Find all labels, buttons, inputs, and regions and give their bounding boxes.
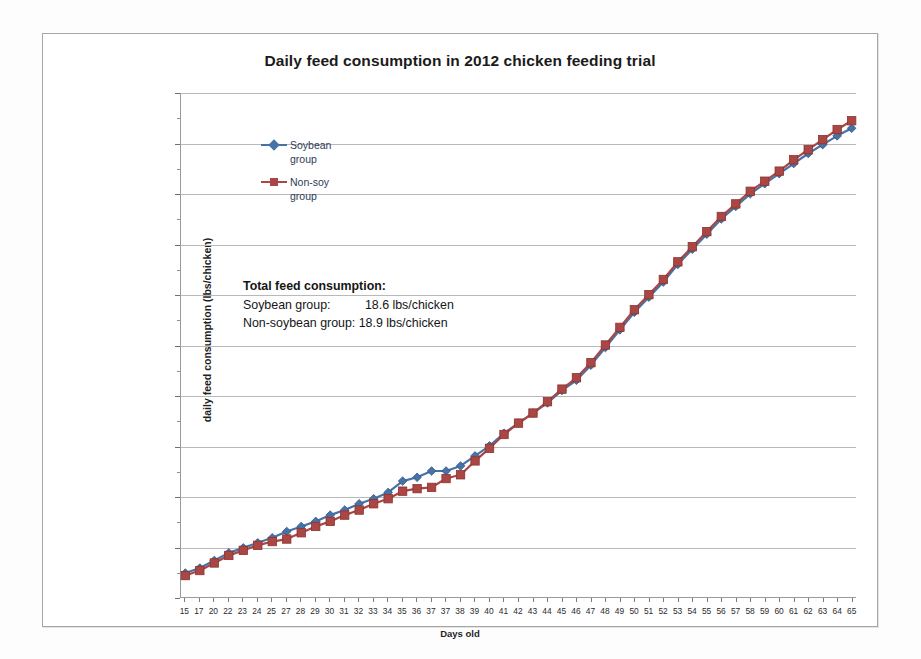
data-point-marker <box>312 522 320 530</box>
x-tick-mark <box>591 598 592 602</box>
x-tick-label: 28 <box>296 606 305 616</box>
x-tick-mark <box>431 598 432 602</box>
y-tick-mark <box>175 396 180 397</box>
x-tick-label: 36 <box>412 606 421 616</box>
x-tick-label: 33 <box>368 606 377 616</box>
y-minor-tick-mark <box>177 522 180 523</box>
data-point-marker <box>485 444 493 452</box>
x-tick-mark <box>474 598 475 602</box>
data-point-marker <box>790 156 798 164</box>
y-tick-mark <box>175 598 180 599</box>
x-tick-mark <box>736 598 737 602</box>
x-tick-label: 60 <box>774 606 783 616</box>
data-point-marker <box>804 146 812 154</box>
data-point-marker <box>326 517 334 525</box>
chart-title: Daily feed consumption in 2012 chicken f… <box>43 52 877 70</box>
x-tick-mark <box>489 598 490 602</box>
x-tick-mark <box>765 598 766 602</box>
x-tick-label: 15 <box>180 606 189 616</box>
square-marker-icon <box>270 178 278 186</box>
x-tick-mark <box>228 598 229 602</box>
data-point-marker <box>225 551 233 559</box>
data-point-marker <box>514 419 522 427</box>
x-tick-mark <box>460 598 461 602</box>
x-tick-mark <box>649 598 650 602</box>
data-point-marker <box>847 117 855 125</box>
x-tick-mark <box>750 598 751 602</box>
x-tick-label: 25 <box>267 606 276 616</box>
data-point-marker <box>703 227 711 235</box>
x-tick-mark <box>823 598 824 602</box>
x-tick-label: 37 <box>426 606 435 616</box>
x-tick-mark <box>852 598 853 602</box>
x-tick-mark <box>344 598 345 602</box>
y-minor-tick-mark <box>177 320 180 321</box>
x-tick-mark <box>300 598 301 602</box>
data-point-marker <box>688 243 696 251</box>
x-tick-mark <box>416 598 417 602</box>
x-tick-mark <box>445 598 446 602</box>
x-tick-label: 64 <box>832 606 841 616</box>
x-tick-label: 65 <box>847 606 856 616</box>
x-tick-mark <box>533 598 534 602</box>
x-tick-label: 62 <box>803 606 812 616</box>
scanned-page: Daily feed consumption in 2012 chicken f… <box>0 0 921 659</box>
data-point-marker <box>761 177 769 185</box>
y-tick-mark <box>175 144 180 145</box>
x-tick-label: 51 <box>644 606 653 616</box>
x-tick-mark <box>721 598 722 602</box>
data-point-marker <box>413 473 422 482</box>
data-point-marker <box>239 546 247 554</box>
data-point-marker <box>254 541 262 549</box>
x-tick-mark <box>794 598 795 602</box>
x-tick-label: 47 <box>586 606 595 616</box>
x-tick-label: 20 <box>209 606 218 616</box>
x-tick-label: 17 <box>194 606 203 616</box>
chart-legend: Soybean group Non-soy group <box>261 138 381 212</box>
data-point-marker <box>572 374 580 382</box>
annotation-row-nonsoy: Non-soybean group: 18.9 lbs/chicken <box>243 314 454 333</box>
legend-label-soybean: Soybean group <box>290 138 381 166</box>
data-point-marker <box>558 385 566 393</box>
x-tick-label: 45 <box>557 606 566 616</box>
data-point-marker <box>196 566 204 574</box>
x-tick-mark <box>779 598 780 602</box>
data-point-marker <box>355 506 363 514</box>
x-tick-label: 52 <box>658 606 667 616</box>
annotation-row-soybean: Soybean group: 18.6 lbs/chicken <box>243 296 454 315</box>
y-minor-tick-mark <box>177 270 180 271</box>
x-tick-mark <box>257 598 258 602</box>
x-tick-label: 41 <box>499 606 508 616</box>
annotation-heading: Total feed consumption: <box>243 277 454 296</box>
x-tick-label: 29 <box>310 606 319 616</box>
data-point-marker <box>529 409 537 417</box>
x-tick-mark <box>329 598 330 602</box>
legend-item-nonsoy: Non-soy group <box>261 175 381 203</box>
x-tick-label: 22 <box>223 606 232 616</box>
legend-item-soybean: Soybean group <box>261 138 381 166</box>
data-point-marker <box>283 535 291 543</box>
data-point-marker <box>471 457 479 465</box>
x-tick-label: 27 <box>281 606 290 616</box>
y-tick-mark <box>175 346 180 347</box>
x-tick-mark <box>518 598 519 602</box>
x-tick-label: 31 <box>339 606 348 616</box>
data-point-marker <box>645 290 653 298</box>
x-tick-label: 61 <box>789 606 798 616</box>
data-point-marker <box>717 212 725 220</box>
data-point-marker <box>427 467 436 476</box>
x-tick-label: 56 <box>716 606 725 616</box>
y-minor-tick-mark <box>177 219 180 220</box>
y-minor-tick-mark <box>177 421 180 422</box>
x-tick-mark <box>242 598 243 602</box>
legend-swatch-nonsoy <box>261 181 287 183</box>
legend-label-nonsoy: Non-soy group <box>290 175 381 203</box>
data-point-marker <box>500 430 508 438</box>
y-tick-mark <box>175 447 180 448</box>
x-tick-mark <box>286 598 287 602</box>
y-tick-mark <box>175 295 180 296</box>
x-tick-label: 37 <box>441 606 450 616</box>
x-tick-mark <box>373 598 374 602</box>
x-tick-mark <box>678 598 679 602</box>
data-point-marker <box>601 341 609 349</box>
